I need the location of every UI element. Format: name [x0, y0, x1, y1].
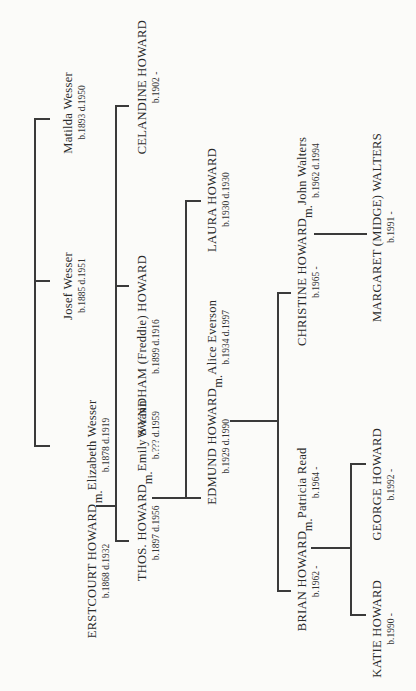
- person-thos-howard[interactable]: THOS. HOWARD b.1897 d.1956: [136, 484, 161, 581]
- marriage-label: m.: [87, 491, 110, 504]
- person-wyndham-howard[interactable]: WYNDHAM (Freddie) HOWARD b.1899 d.1916: [136, 255, 161, 438]
- gen2-bracket-vertical: [115, 105, 117, 542]
- gen3-tick-laura: [185, 200, 201, 202]
- wesser-bracket-vertical: [34, 118, 36, 446]
- person-laura-howard[interactable]: LAURA HOWARD b.1930 d.1930: [206, 148, 231, 252]
- gen3-marriage-drop: [230, 420, 278, 422]
- person-erstcourt-howard[interactable]: ERSTCOURT HOWARD b.1868 d.1932: [86, 504, 111, 639]
- marriage-label: m.: [297, 205, 320, 218]
- gen2-tick-celandine: [115, 105, 129, 107]
- person-margaret-walters[interactable]: MARGARET (MIDGE) WALTERS b.1991 -: [371, 133, 396, 322]
- wesser-tick-matilda: [34, 118, 50, 120]
- person-edmund-howard[interactable]: EDMUND HOWARD b.1929 d.1990: [206, 388, 231, 505]
- person-john-walters[interactable]: John Walters b.1962 d.1994: [296, 137, 321, 205]
- gen3-tick-edmund: [185, 497, 201, 499]
- gen4-tick-brian: [277, 590, 291, 592]
- marriage-label: m.: [297, 518, 320, 531]
- person-celandine-howard[interactable]: CELANDINE HOWARD b.1902 -: [136, 20, 161, 154]
- person-alice-everson[interactable]: Alice Everson b.1934 d.1997: [206, 300, 231, 375]
- person-josef-wesser[interactable]: Josef Wesser b.1885 d.1951: [62, 252, 87, 320]
- wesser-tick-josef: [34, 280, 50, 282]
- person-matilda-wesser[interactable]: Matilda Wesser b.1893 d.1950: [62, 72, 87, 154]
- marriage-label: m.: [207, 375, 230, 388]
- gen4-bracket-vertical: [277, 292, 279, 592]
- brian-children-bracket: [350, 463, 352, 616]
- christine-marriage-drop: [314, 233, 367, 235]
- gen2-tick-thos: [115, 540, 129, 542]
- person-patricia-read[interactable]: Patricia Read b.1964 -: [296, 447, 321, 518]
- gen2-tick-wyndham: [115, 285, 129, 287]
- person-katie-howard[interactable]: KATIE HOWARD b.1990 -: [371, 580, 396, 678]
- person-brian-howard[interactable]: BRIAN HOWARD b.1962 -: [296, 531, 321, 631]
- marriage-label: m.: [137, 471, 160, 484]
- gen4-tick-christine: [277, 292, 291, 294]
- person-george-howard[interactable]: GEORGE HOWARD b.1992 -: [371, 428, 396, 541]
- wesser-tick-elizabeth: [34, 445, 50, 447]
- gen4-couple-brian: BRIAN HOWARD b.1962 - m. Patricia Read b…: [296, 447, 321, 631]
- person-christine-howard[interactable]: CHRISTINE HOWARD b.1965 -: [296, 218, 321, 346]
- gen3-bracket-vertical: [185, 200, 187, 499]
- gen3-couple: EDMUND HOWARD b.1929 d.1990 m. Alice Eve…: [206, 300, 231, 505]
- tick-george: [350, 463, 366, 465]
- person-elizabeth-wesser[interactable]: Elizabeth Wesser b.1878 d.1919: [86, 400, 111, 491]
- gen4-couple-christine: CHRISTINE HOWARD b.1965 - m. John Walter…: [296, 137, 321, 346]
- tick-katie: [350, 614, 366, 616]
- gen1-couple: ERSTCOURT HOWARD b.1868 d.1932 m. Elizab…: [86, 400, 111, 638]
